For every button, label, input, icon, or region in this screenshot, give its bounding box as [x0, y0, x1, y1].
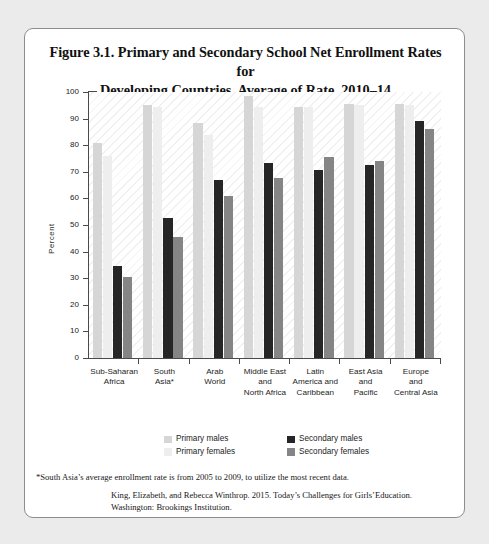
y-axis-tick-label: 40	[45, 248, 79, 256]
bar	[294, 107, 303, 358]
y-axis-tick-label: 30	[45, 274, 79, 282]
bar-group	[244, 92, 284, 358]
bar	[123, 277, 132, 358]
category-label-line: Europe	[383, 367, 449, 377]
legend-swatch-icon	[287, 436, 295, 444]
y-axis-tick-label: 80	[45, 141, 79, 149]
legend-swatch-icon	[287, 448, 295, 456]
y-axis-tick	[83, 331, 89, 332]
bar-group	[193, 92, 233, 358]
y-axis-tick	[83, 252, 89, 253]
footnote: *South Asia’s average enrollment rate is…	[36, 472, 456, 483]
bar	[204, 135, 213, 358]
bar	[395, 104, 404, 358]
bar	[264, 163, 273, 359]
x-axis-tick	[339, 359, 340, 364]
bar	[214, 180, 223, 358]
category-label-line: Central Asia	[383, 388, 449, 398]
y-axis-tick-label: 50	[45, 221, 79, 229]
bar-group	[93, 92, 133, 358]
y-axis-tick	[83, 92, 89, 93]
y-axis-tick	[83, 305, 89, 306]
x-axis-tick	[189, 359, 190, 364]
legend-label: Secondary females	[299, 446, 369, 458]
legend-swatch-icon	[164, 448, 172, 456]
bar	[425, 129, 434, 358]
bar	[103, 156, 112, 358]
bar	[93, 143, 102, 358]
y-axis-tick	[83, 145, 89, 146]
x-axis-tick	[138, 359, 139, 364]
y-axis-tick	[83, 119, 89, 120]
source-citation: King, Elizabeth, and Rebecca Winthrop. 2…	[111, 490, 456, 513]
legend-swatch-icon	[164, 436, 172, 444]
bar	[254, 107, 263, 358]
source-line-1: King, Elizabeth, and Rebecca Winthrop. 2…	[111, 490, 456, 502]
y-axis-label: Percent	[47, 199, 56, 279]
bar	[153, 107, 162, 358]
bar-group	[294, 92, 334, 358]
legend-label: Primary females	[176, 446, 235, 458]
y-axis-tick-label: 60	[45, 194, 79, 202]
bar	[405, 105, 414, 358]
x-axis-line	[88, 358, 441, 359]
x-axis-tick	[289, 359, 290, 364]
bar	[354, 105, 363, 358]
bar	[415, 121, 424, 358]
x-axis-category-label: EuropeandCentral Asia	[383, 367, 449, 398]
bar	[274, 178, 283, 358]
bar	[113, 266, 122, 358]
bar	[304, 107, 313, 358]
x-axis-tick	[390, 359, 391, 364]
y-axis-tick-label: 10	[45, 327, 79, 335]
legend: Primary malesPrimary females Secondary m…	[164, 433, 394, 459]
bar-group	[143, 92, 183, 358]
y-axis-tick-label: 20	[45, 301, 79, 309]
bar	[193, 123, 202, 358]
bar	[314, 170, 323, 358]
y-axis-tick-label: 70	[45, 168, 79, 176]
legend-label: Secondary males	[299, 433, 362, 445]
y-axis-tick-label: 100	[45, 88, 79, 96]
y-axis-tick	[83, 358, 89, 359]
figure-card: Figure 3.1. Primary and Secondary School…	[24, 28, 465, 518]
legend-label: Primary males	[176, 433, 228, 445]
x-axis-tick	[239, 359, 240, 364]
bar	[375, 161, 384, 358]
y-axis-tick-label: 90	[45, 115, 79, 123]
y-axis-tick-label: 0	[45, 354, 79, 362]
bar	[173, 237, 182, 358]
category-label-line: and	[383, 377, 449, 387]
bar-group	[395, 92, 435, 358]
y-axis-tick	[83, 225, 89, 226]
bar	[163, 218, 172, 358]
bar	[324, 157, 333, 358]
bar-chart: Percent 0102030405060708090100 Sub-Sahar…	[25, 29, 465, 518]
bar	[344, 104, 353, 358]
bar-group	[344, 92, 384, 358]
y-axis-tick	[83, 278, 89, 279]
y-axis-tick	[83, 172, 89, 173]
x-axis-tick	[440, 359, 441, 364]
bar	[244, 96, 253, 358]
bar	[143, 105, 152, 358]
bar	[365, 165, 374, 358]
y-axis-tick	[83, 198, 89, 199]
source-line-2: Washington: Brookings Institution.	[111, 502, 456, 514]
bar	[224, 196, 233, 358]
